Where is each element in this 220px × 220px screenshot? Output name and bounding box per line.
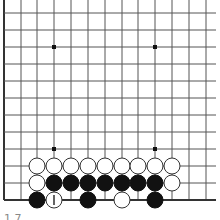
black-stone[interactable] bbox=[147, 192, 163, 208]
black-stone[interactable] bbox=[114, 175, 130, 191]
black-stone[interactable] bbox=[46, 175, 62, 191]
white-stone[interactable] bbox=[164, 158, 180, 174]
white-stone[interactable] bbox=[29, 158, 45, 174]
diagram-caption: 1 7 bbox=[4, 213, 22, 220]
white-stone[interactable] bbox=[97, 158, 113, 174]
white-stone[interactable] bbox=[114, 158, 130, 174]
black-stone[interactable] bbox=[80, 175, 96, 191]
black-stone[interactable] bbox=[97, 175, 113, 191]
star-point bbox=[52, 147, 56, 151]
black-stone[interactable] bbox=[80, 192, 96, 208]
white-stone[interactable] bbox=[46, 158, 62, 174]
black-stone[interactable] bbox=[147, 175, 163, 191]
star-point bbox=[153, 147, 157, 151]
white-stone[interactable] bbox=[130, 158, 146, 174]
black-stone[interactable] bbox=[63, 175, 79, 191]
star-point bbox=[52, 45, 56, 49]
white-stone[interactable] bbox=[147, 158, 163, 174]
black-stone[interactable] bbox=[29, 192, 45, 208]
go-board[interactable] bbox=[0, 0, 220, 220]
white-stone[interactable] bbox=[29, 175, 45, 191]
star-point bbox=[153, 45, 157, 49]
black-stone[interactable] bbox=[130, 175, 146, 191]
white-stone[interactable] bbox=[80, 158, 96, 174]
white-stone[interactable] bbox=[114, 192, 130, 208]
white-stone[interactable] bbox=[46, 192, 62, 208]
white-stone[interactable] bbox=[164, 175, 180, 191]
white-stone[interactable] bbox=[63, 158, 79, 174]
